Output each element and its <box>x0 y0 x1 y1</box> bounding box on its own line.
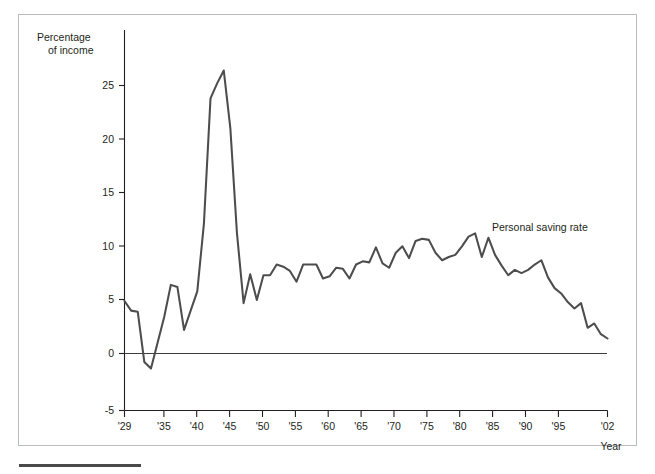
x-tick-label-60: '60 <box>321 420 335 432</box>
saving-rate-line-chart: Percentage of income -5 0 5 10 15 20 25 <box>0 0 655 474</box>
y-tick-label-25: 25 <box>102 79 114 91</box>
x-tick-label-95: '95 <box>552 420 566 432</box>
personal-saving-rate-line <box>125 70 608 368</box>
y-tick-label-15: 15 <box>102 186 114 198</box>
x-tick-label-70: '70 <box>387 420 401 432</box>
y-axis-title-line1: Percentage <box>37 31 91 43</box>
y-tick-label-0: 0 <box>108 347 114 359</box>
series-label-personal-saving-rate: Personal saving rate <box>492 221 588 233</box>
x-tick-label-02: '02 <box>601 420 615 432</box>
x-tick-label-85: '85 <box>486 420 500 432</box>
x-tick-label-90: '90 <box>519 420 533 432</box>
x-tick-label-29: '29 <box>118 420 132 432</box>
y-axis-title-line2: of income <box>48 44 94 56</box>
x-tick-label-45: '45 <box>223 420 237 432</box>
footer-rule <box>19 464 141 467</box>
y-axis-tick-labels: -5 0 5 10 15 20 25 <box>102 79 114 416</box>
y-tick-label-5: 5 <box>108 293 114 305</box>
x-tick-label-80: '80 <box>453 420 467 432</box>
x-axis-title: Year <box>600 440 622 452</box>
x-tick-label-65: '65 <box>354 420 368 432</box>
y-tick-label-20: 20 <box>102 133 114 145</box>
figure-container: Percentage of income -5 0 5 10 15 20 25 <box>0 0 655 474</box>
y-axis-ticks <box>119 86 125 411</box>
x-tick-label-40: '40 <box>190 420 204 432</box>
x-tick-label-35: '35 <box>157 420 171 432</box>
x-axis-ticks <box>125 411 608 418</box>
y-tick-label-10: 10 <box>102 240 114 252</box>
x-tick-label-55: '55 <box>289 420 303 432</box>
x-axis-tick-labels: '29 '35 '40 '45 '50 '55 '60 '65 '70 '75 … <box>118 420 615 432</box>
y-tick-label--5: -5 <box>105 404 114 416</box>
x-tick-label-75: '75 <box>420 420 434 432</box>
x-tick-label-50: '50 <box>256 420 270 432</box>
